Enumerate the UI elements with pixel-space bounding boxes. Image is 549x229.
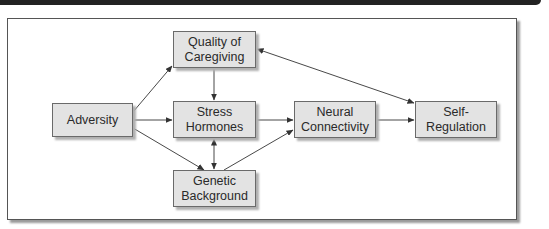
node-self-regulation: Self- Regulation xyxy=(415,101,497,138)
node-stress-hormones: Stress Hormones xyxy=(173,101,256,138)
node-adversity: Adversity xyxy=(52,103,133,137)
node-neural-connectivity: Neural Connectivity xyxy=(294,101,376,138)
node-quality-of-caregiving: Quality of Caregiving xyxy=(173,31,256,68)
node-genetic-background: Genetic Background xyxy=(173,170,256,207)
header-bar xyxy=(0,0,541,5)
